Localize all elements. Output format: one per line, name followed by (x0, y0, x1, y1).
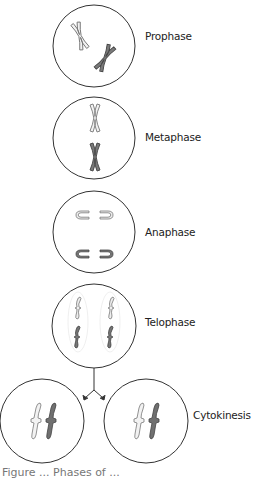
cell-membrane (53, 191, 135, 273)
label-cytokinesis: Cytokinesis (193, 409, 251, 421)
label-telophase: Telophase (145, 316, 195, 328)
split-arrow-icon (83, 368, 105, 400)
metaphase-cell (53, 97, 135, 179)
label-prophase: Prophase (145, 30, 192, 42)
figure-caption: Figure ... Phases of ... (2, 466, 120, 479)
anaphase-cell (53, 191, 135, 273)
telophase-cell (52, 284, 136, 368)
label-metaphase: Metaphase (145, 131, 201, 143)
cell-membrane (0, 379, 84, 463)
prophase-cell (53, 5, 135, 87)
label-anaphase: Anaphase (145, 226, 195, 238)
cell-membrane (104, 379, 188, 463)
cell-membrane (53, 5, 135, 87)
cell-membrane (52, 284, 136, 368)
cytokinesis-cell-right (104, 379, 188, 463)
cytokinesis-cell-left (0, 379, 84, 463)
